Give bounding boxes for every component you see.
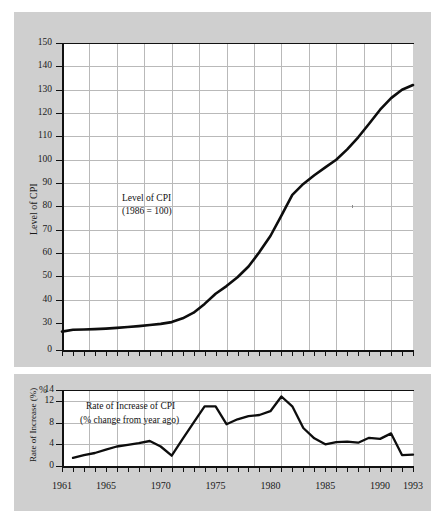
rate-of-increase-series: [0, 0, 445, 523]
figure-container: Level of CPI 150140130120110100908070605…: [0, 0, 445, 523]
rate-annotation-title: Rate of Increase of CPI: [86, 400, 175, 413]
rate-annotation-sub: (% change from year ago): [80, 414, 179, 427]
